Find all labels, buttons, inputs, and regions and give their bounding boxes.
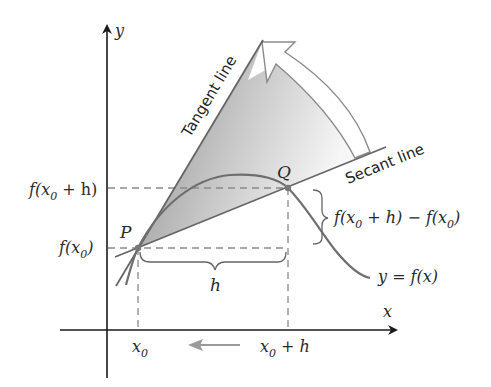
curve-label: y = f(x) <box>377 267 438 286</box>
f-x0-label: f(x0) <box>58 238 93 261</box>
point-Q <box>285 185 291 191</box>
f-x0-plus-h-label: f(x0 + h) <box>28 180 97 203</box>
left-arrow-icon <box>188 339 240 351</box>
x-axis-label: x <box>383 302 392 321</box>
point-P-label: P <box>119 222 132 242</box>
point-P <box>135 245 141 251</box>
h-label: h <box>210 275 221 295</box>
y-axis-label: y <box>114 21 125 40</box>
shaded-sweep-region <box>138 42 355 248</box>
difference-label: f(x0 + h) − f(x0) <box>333 208 460 231</box>
h-brace <box>140 252 286 270</box>
x0-plus-h-label: x0 + h <box>260 337 310 360</box>
diagram-canvas: y x P Q Tangent line Secant line f(x0 + … <box>0 0 491 387</box>
x0-label: x0 <box>132 337 148 360</box>
point-Q-label: Q <box>277 162 291 182</box>
secant-tangent-diagram: y x P Q Tangent line Secant line f(x0 + … <box>0 0 491 387</box>
